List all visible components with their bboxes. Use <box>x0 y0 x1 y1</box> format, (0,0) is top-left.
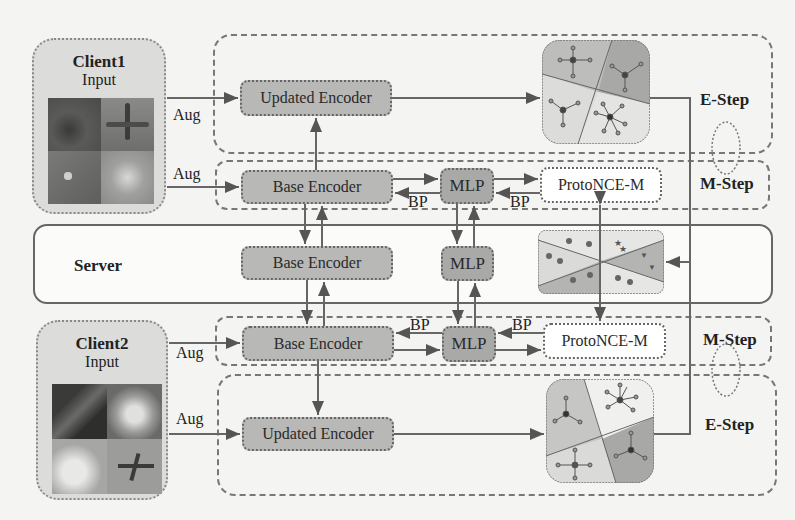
svg-text:★: ★ <box>619 244 627 254</box>
client2-input-arrows <box>169 343 240 434</box>
client1-input-arrows <box>167 98 239 187</box>
diagram-connectors: ★★ ▼▼ <box>0 0 795 520</box>
client1-cluster-panel <box>542 40 650 144</box>
em-cycle-icons <box>712 122 740 396</box>
svg-text:▼: ▼ <box>640 251 648 260</box>
client2-cluster-panel <box>546 379 654 483</box>
svg-text:▼: ▼ <box>648 263 656 272</box>
